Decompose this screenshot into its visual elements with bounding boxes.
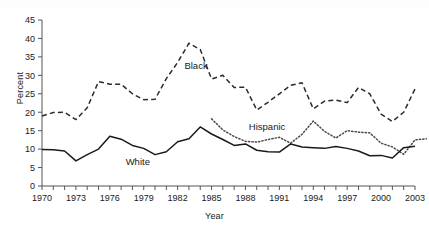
svg-text:10: 10 — [25, 144, 35, 154]
series-label-hispanic: Hispanic — [249, 121, 285, 132]
line-chart-plot: 0510152025303540451970197319761979198219… — [0, 0, 429, 230]
x-axis-label: Year — [0, 211, 429, 221]
svg-text:25: 25 — [25, 89, 35, 99]
series-line-hispanic — [212, 119, 427, 154]
svg-text:1982: 1982 — [168, 193, 188, 203]
svg-text:45: 45 — [25, 15, 35, 25]
svg-text:40: 40 — [25, 34, 35, 44]
svg-text:1994: 1994 — [303, 193, 323, 203]
svg-text:1979: 1979 — [134, 193, 154, 203]
svg-text:35: 35 — [25, 52, 35, 62]
y-axis-label: Percent — [15, 48, 25, 128]
chart-figure: 0510152025303540451970197319761979198219… — [0, 0, 429, 230]
svg-text:20: 20 — [25, 108, 35, 118]
svg-text:15: 15 — [25, 126, 35, 136]
svg-text:5: 5 — [30, 163, 35, 173]
svg-text:1991: 1991 — [269, 193, 289, 203]
svg-text:2000: 2000 — [371, 193, 391, 203]
svg-text:1973: 1973 — [66, 193, 86, 203]
series-label-white: White — [126, 156, 150, 167]
svg-text:1985: 1985 — [202, 193, 222, 203]
svg-text:2003: 2003 — [405, 193, 425, 203]
svg-text:1988: 1988 — [235, 193, 255, 203]
svg-text:1976: 1976 — [100, 193, 120, 203]
svg-text:1970: 1970 — [32, 193, 52, 203]
svg-text:0: 0 — [30, 181, 35, 191]
svg-text:1997: 1997 — [337, 193, 357, 203]
svg-text:30: 30 — [25, 71, 35, 81]
series-line-black — [42, 43, 415, 121]
series-label-black: Black — [184, 60, 207, 71]
